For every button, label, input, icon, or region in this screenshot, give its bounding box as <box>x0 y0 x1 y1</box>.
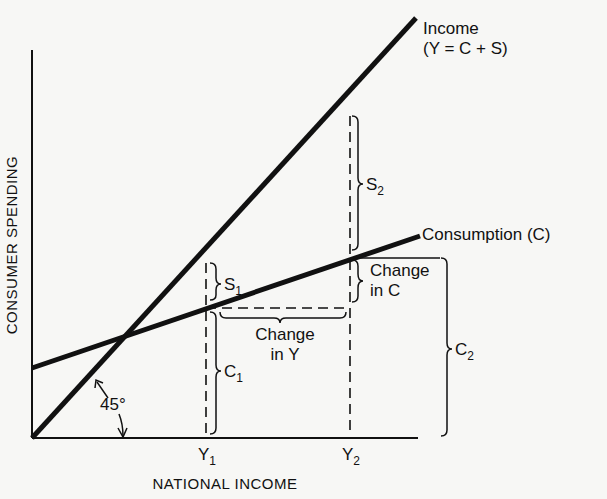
s1-brace <box>210 263 221 300</box>
change-in-y-label-line2: in Y <box>271 345 300 364</box>
x-tick-y2: Y2 <box>342 445 360 468</box>
change-in-y-brace <box>220 312 346 323</box>
consumption-label: Consumption (C) <box>422 225 551 244</box>
change-in-c-brace <box>352 260 363 302</box>
consumption-line <box>32 236 420 368</box>
c1-label: C1 <box>224 362 243 385</box>
x-tick-y1: Y1 <box>198 445 216 468</box>
angle-label: 45° <box>100 395 126 414</box>
keynesian-cross-diagram: Income (Y = C + S) Consumption (C) S2 S1… <box>0 0 607 499</box>
income-label: Income <box>423 19 479 38</box>
change-in-c-label-line2: in C <box>370 281 400 300</box>
change-in-c-label-line1: Change <box>370 261 430 280</box>
s2-brace <box>352 116 363 250</box>
s2-label: S2 <box>366 175 384 198</box>
c2-label: C2 <box>455 340 474 363</box>
y-axis-title: CONSUMER SPENDING <box>3 156 20 335</box>
x-axis-title: NATIONAL INCOME <box>152 475 297 492</box>
s1-label: S1 <box>224 275 242 298</box>
c2-brace <box>441 258 452 436</box>
change-in-y-label-line1: Change <box>255 325 315 344</box>
income-equation-label: (Y = C + S) <box>423 39 508 58</box>
c1-brace <box>210 312 221 434</box>
